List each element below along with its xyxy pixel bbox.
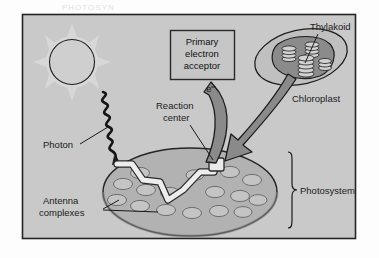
antenna-complex — [234, 207, 252, 218]
antenna-complex — [114, 178, 133, 189]
antenna-complex — [206, 186, 225, 197]
grana-stack — [282, 46, 296, 62]
acceptor-label-line3: acceptor — [184, 60, 220, 71]
antenna-complex — [231, 190, 250, 201]
thylakoid-label: Thylakoid — [310, 21, 351, 32]
primary-electron-acceptor-box: Primary electron acceptor — [171, 31, 235, 80]
chloroplast-label: Chloroplast — [292, 93, 340, 104]
reaction-center-label-line1: Reaction — [156, 100, 194, 111]
sun-circle-icon — [50, 40, 95, 85]
scan-artifact-text: PHOTOSYN — [62, 3, 115, 12]
antenna-complex — [137, 184, 156, 195]
acceptor-label-line1: Primary — [186, 36, 219, 47]
antenna-complex — [131, 200, 150, 211]
reaction-center-label-line2: center — [163, 112, 189, 123]
acceptor-label-line2: electron — [185, 48, 219, 59]
antenna-complex — [183, 207, 202, 218]
photosystem-disc — [103, 148, 277, 236]
antenna-complexes-label-line1: Antenna — [43, 195, 79, 206]
electron-label: e — [206, 83, 211, 94]
antenna-complex — [243, 174, 262, 185]
antenna-complex — [108, 194, 127, 205]
grana-stack — [319, 59, 332, 71]
antenna-complex — [157, 204, 176, 215]
grana-stack — [298, 55, 314, 77]
photosystem-diagram: PHOTOSYN — [0, 0, 379, 258]
antenna-complexes-label-line2: complexes — [39, 207, 85, 218]
figure-root: PHOTOSYN — [0, 0, 379, 258]
antenna-complex — [210, 205, 229, 216]
antenna-complex — [249, 195, 267, 206]
photon-label: Photon — [43, 139, 73, 150]
photosystem-label: Photosystem — [300, 185, 355, 196]
